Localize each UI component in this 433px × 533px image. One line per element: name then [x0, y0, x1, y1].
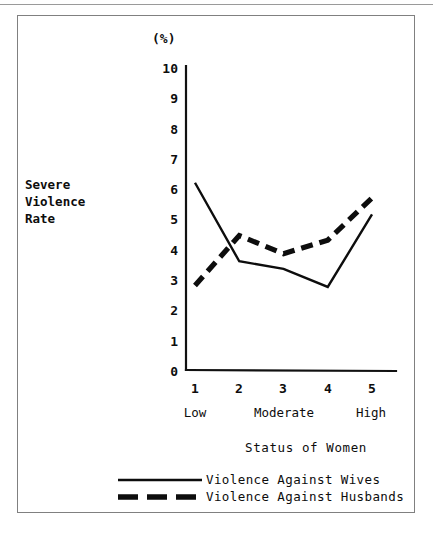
y-tick-3: 3	[152, 274, 178, 287]
x-tick-5: 5	[362, 382, 382, 395]
figure-page: (%) 10 9 8 7 6 5 4 3 2 1 0 1 2 3 4 5 Low…	[0, 0, 433, 533]
line-chart-plot	[0, 0, 433, 533]
legend-label-violence-against-wives: Violence Against Wives	[206, 472, 380, 487]
x-tick-2: 2	[229, 382, 249, 395]
x-tick-1: 1	[185, 382, 205, 395]
x-category-low: Low	[174, 407, 216, 420]
y-tick-9: 9	[152, 92, 178, 105]
y-tick-2: 2	[152, 304, 178, 317]
y-axis-title: SevereViolenceRate	[25, 176, 85, 227]
y-tick-6: 6	[152, 183, 178, 196]
chart-legend: Violence Against Wives Violence Against …	[118, 471, 388, 505]
series-line-violence-against-husbands	[195, 198, 372, 286]
x-tick-4: 4	[318, 382, 338, 395]
y-tick-10: 10	[152, 62, 178, 75]
legend-swatch-solid-line	[118, 471, 202, 488]
y-tick-0: 0	[152, 365, 178, 378]
y-axis-unit-label: (%)	[152, 32, 175, 45]
y-axis-title-line-1: Severe	[25, 177, 70, 192]
legend-label-violence-against-husbands: Violence Against Husbands	[206, 489, 404, 504]
y-tick-5: 5	[152, 213, 178, 226]
series-line-violence-against-wives	[195, 183, 372, 287]
legend-item-violence-against-wives: Violence Against Wives	[118, 471, 388, 488]
y-tick-1: 1	[152, 335, 178, 348]
legend-swatch-dashed-line	[118, 488, 202, 505]
x-category-high: High	[350, 407, 392, 420]
x-category-moderate: Moderate	[252, 407, 316, 420]
x-axis-line	[186, 370, 396, 371]
legend-item-violence-against-husbands: Violence Against Husbands	[118, 488, 388, 505]
y-axis-title-line-3: Rate	[25, 211, 55, 226]
y-axis-title-line-2: Violence	[25, 194, 85, 209]
x-axis-title: Status of Women	[245, 442, 367, 455]
y-tick-7: 7	[152, 153, 178, 166]
x-tick-3: 3	[273, 382, 293, 395]
y-tick-4: 4	[152, 244, 178, 257]
y-tick-8: 8	[152, 123, 178, 136]
